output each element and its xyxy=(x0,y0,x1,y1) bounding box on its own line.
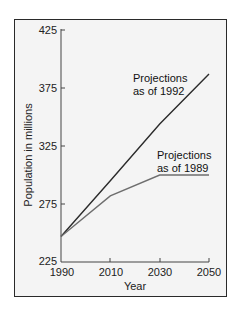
series-label-1992-line2: as of 1992 xyxy=(133,85,184,97)
x-tick-label: 2030 xyxy=(148,266,172,278)
series-label-1989-line2: as of 1989 xyxy=(157,162,208,174)
x-tick-label: 2010 xyxy=(99,266,123,278)
y-tick-label: 275 xyxy=(39,198,57,210)
y-tick-label: 375 xyxy=(39,82,57,94)
series-label-1992-line1: Projections xyxy=(133,72,188,84)
x-tick-label: 1990 xyxy=(50,266,74,278)
y-tick-label: 325 xyxy=(39,140,57,152)
y-tick-label: 425 xyxy=(39,24,57,36)
x-ticks: 1990 2010 2030 2050 xyxy=(50,258,221,278)
series-label-1989-line1: Projections xyxy=(157,149,212,161)
x-tick-label: 2050 xyxy=(197,266,221,278)
x-axis-title: Year xyxy=(124,280,147,292)
y-axis-title: Population in millions xyxy=(22,103,34,207)
line-chart: 425 375 325 275 225 1990 2010 2030 2050 … xyxy=(0,0,239,309)
series-line-1989 xyxy=(61,175,209,237)
